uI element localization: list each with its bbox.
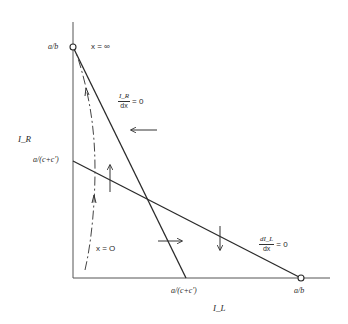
equilibrium-point-top [70,44,76,50]
x-infinity-label: x = ∞ [91,43,110,51]
x-zero-label: x = O [96,245,115,253]
y-tick-a-over-c: a/(c+c') [33,156,59,164]
trajectory-arrow-icon [85,88,89,96]
isocline-ir-equals: = 0 [132,97,143,106]
isocline-il-numerator: dI_L [259,236,274,245]
isocline-il-equals: = 0 [276,240,287,249]
x-tick-a-over-b: a/b [294,287,304,295]
x-axis-label: I_L [213,304,226,313]
y-tick-a-over-b: a/b [48,43,58,51]
isocline-ir-numerator: I_R [118,93,130,102]
isocline-il-denominator: dx [263,245,270,253]
x-tick-a-over-c: a/(c+c') [171,287,197,295]
isocline-ir-denominator: dx [120,102,127,110]
isocline-il [73,161,301,278]
y-axis-label: I_R [18,135,31,144]
isocline-il-label: dI_L dx = 0 [259,236,288,252]
isocline-ir [73,47,186,278]
equilibrium-point-right [298,275,304,281]
isocline-ir-label: I_R dx = 0 [118,93,143,109]
